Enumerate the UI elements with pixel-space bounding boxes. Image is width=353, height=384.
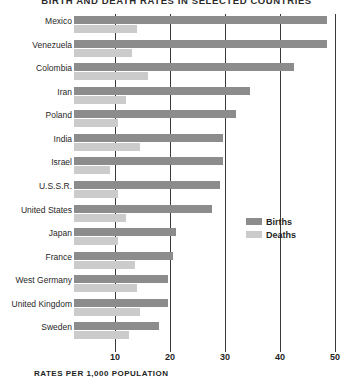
- bar-births-colombia: [74, 63, 294, 71]
- legend-label-births: Births: [266, 217, 292, 227]
- bar-deaths-israel: [74, 166, 110, 174]
- x-tick-label-10: 10: [100, 352, 130, 362]
- bar-deaths-france: [74, 261, 135, 269]
- bar-row: [60, 85, 335, 109]
- x-axis-label: RATES PER 1,000 POPULATION: [34, 369, 169, 378]
- x-tick-mark-50: [335, 344, 336, 352]
- bar-births-sweden: [74, 322, 159, 330]
- chart-title: BIRTH AND DEATH RATES IN SELECTED COUNTR…: [0, 0, 353, 4]
- bar-births-israel: [74, 157, 223, 165]
- bar-births-u-s-s-r: [74, 181, 220, 189]
- bar-births-india: [74, 134, 223, 142]
- bar-row: [60, 297, 335, 321]
- legend-item-deaths: Deaths: [246, 229, 326, 240]
- bar-deaths-india: [74, 143, 140, 151]
- bar-row: [60, 155, 335, 179]
- bar-row: [60, 273, 335, 297]
- bar-deaths-poland: [74, 119, 118, 127]
- bar-row: [60, 132, 335, 156]
- x-tick-mark-20: [170, 344, 171, 352]
- bar-deaths-u-s-s-r: [74, 190, 118, 198]
- bar-row: [60, 14, 335, 38]
- bar-rows: [60, 14, 335, 344]
- bar-deaths-japan: [74, 237, 118, 245]
- chart-legend: BirthsDeaths: [246, 216, 326, 242]
- x-tick-label-50: 50: [320, 352, 350, 362]
- bar-row: [60, 38, 335, 62]
- bar-births-united-kingdom: [74, 299, 168, 307]
- legend-swatch-births: [246, 218, 262, 225]
- legend-item-births: Births: [246, 216, 326, 227]
- x-tick-mark-40: [280, 344, 281, 352]
- bar-deaths-sweden: [74, 331, 129, 339]
- bar-births-mexico: [74, 16, 327, 24]
- x-tick-label-30: 30: [210, 352, 240, 362]
- bar-deaths-colombia: [74, 72, 148, 80]
- bar-births-poland: [74, 110, 236, 118]
- x-axis-ticks: [60, 344, 335, 352]
- bar-deaths-venezuela: [74, 49, 132, 57]
- legend-swatch-deaths: [246, 231, 262, 238]
- bar-row: [60, 61, 335, 85]
- bar-chart: BIRTH AND DEATH RATES IN SELECTED COUNTR…: [0, 0, 353, 384]
- x-tick-label-40: 40: [265, 352, 295, 362]
- legend-label-deaths: Deaths: [266, 230, 296, 240]
- x-axis-tick-labels: 1020304050: [0, 352, 353, 364]
- bar-births-france: [74, 252, 173, 260]
- bar-deaths-united-kingdom: [74, 308, 140, 316]
- x-tick-mark-30: [225, 344, 226, 352]
- bar-deaths-mexico: [74, 25, 137, 33]
- bar-deaths-west-germany: [74, 284, 137, 292]
- bar-row: [60, 320, 335, 344]
- bar-deaths-united-states: [74, 214, 126, 222]
- bar-births-venezuela: [74, 40, 327, 48]
- bar-row: [60, 250, 335, 274]
- plot-area: [60, 14, 335, 344]
- x-tick-label-20: 20: [155, 352, 185, 362]
- gridline-50: [335, 14, 336, 344]
- bar-row: [60, 179, 335, 203]
- bar-deaths-iran: [74, 96, 126, 104]
- bar-births-iran: [74, 87, 250, 95]
- x-tick-mark-10: [115, 344, 116, 352]
- bar-row: [60, 108, 335, 132]
- bar-births-japan: [74, 228, 176, 236]
- bar-births-united-states: [74, 205, 212, 213]
- bar-births-west-germany: [74, 275, 168, 283]
